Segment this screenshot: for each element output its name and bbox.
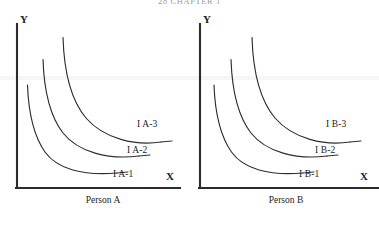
panel-person-b-axes bbox=[199, 24, 378, 188]
leader-ia-3 bbox=[161, 141, 172, 142]
curve-ia-1 bbox=[28, 85, 118, 174]
x-axis-label-person-a: X bbox=[166, 171, 174, 182]
panel-caption-person-b: Person B bbox=[231, 196, 341, 206]
figure-canvas bbox=[0, 0, 379, 225]
curve-label-ia-3: I A-3 bbox=[137, 120, 157, 130]
curve-ib-1 bbox=[214, 85, 303, 174]
x-axis-label-person-b: X bbox=[360, 171, 368, 182]
panel-caption-person-a: Person A bbox=[48, 196, 158, 206]
curve-label-ia-1: I A-1 bbox=[113, 170, 133, 180]
y-axis-label-person-a: Y bbox=[20, 14, 28, 25]
curve-label-ia-2: I A-2 bbox=[127, 146, 147, 156]
curve-label-ib-2: I B-2 bbox=[315, 146, 335, 156]
curve-ia-2 bbox=[43, 60, 139, 158]
curve-label-ib-1: I B-1 bbox=[299, 170, 319, 180]
panel-person-a-axes bbox=[16, 24, 180, 188]
figure-root: 28 CHAPTER 1 bbox=[0, 0, 379, 225]
curve-ib-2 bbox=[231, 60, 327, 158]
curve-label-ib-3: I B-3 bbox=[326, 120, 346, 130]
leader-ib-3 bbox=[350, 141, 361, 142]
y-axis-label-person-b: Y bbox=[203, 14, 211, 25]
